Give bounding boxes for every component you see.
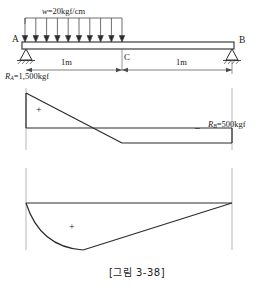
reaction-b-value: =500kgf xyxy=(217,119,246,129)
bmd-line-max-to-b xyxy=(83,203,232,250)
point-c-label: C xyxy=(124,53,130,62)
moment-positive-sign: + xyxy=(69,222,75,232)
distributed-load-arrows xyxy=(22,18,124,42)
beam-analysis-figure: w=20kgf/cm A B C 1m 1m RA=1,500kgf RB=50… xyxy=(0,0,274,291)
reaction-a-label: RA=1,500kgf xyxy=(5,72,49,82)
sfd-slope-a-to-c xyxy=(26,93,122,143)
dimension-c-to-b xyxy=(122,68,232,72)
reaction-b-label: RB=500kgf xyxy=(208,120,246,130)
load-value: =20kgf/cm xyxy=(48,6,85,16)
figure-svg xyxy=(0,0,274,291)
point-a-label: A xyxy=(12,35,19,45)
beam-loading-group xyxy=(17,18,241,74)
beam-body xyxy=(22,42,234,49)
shear-negative-sign: − xyxy=(194,123,200,134)
shear-positive-sign: + xyxy=(36,105,42,115)
support-a xyxy=(17,49,35,64)
bending-moment-diagram-group xyxy=(26,168,232,250)
distributed-load-label: w=20kgf/cm xyxy=(42,7,85,16)
point-b-label: B xyxy=(239,36,245,46)
reaction-a-value: =1,500kgf xyxy=(14,71,49,81)
shear-force-diagram-group xyxy=(26,88,232,150)
figure-caption: [그림 3-38] xyxy=(0,268,274,278)
dimension-label-left: 1m xyxy=(61,58,72,67)
dimension-label-right: 1m xyxy=(176,58,187,67)
